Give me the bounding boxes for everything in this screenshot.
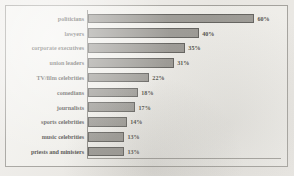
category-label: union leaders: [11, 60, 84, 66]
bar: [88, 14, 254, 24]
bar-value-label: 35%: [188, 45, 200, 51]
bar-row: lawyers40%: [11, 26, 283, 41]
bar-value-label: 22%: [152, 75, 164, 81]
category-label: politicians: [11, 16, 84, 22]
chart-frame: politicians60%lawyers40%corporate execut…: [5, 5, 288, 167]
category-label: lawyers: [11, 31, 84, 37]
bar-track: 31%: [88, 56, 283, 71]
bar-track: 40%: [88, 26, 283, 41]
chart-page: politicians60%lawyers40%corporate execut…: [0, 0, 294, 176]
bar-track: 17%: [88, 100, 283, 115]
bar-row: TV/film celebrities22%: [11, 71, 283, 86]
bar-track: 60%: [88, 12, 283, 27]
bar-row: music celebrities13%: [11, 130, 283, 145]
bar-track: 22%: [88, 71, 283, 86]
bar-value-label: 40%: [202, 31, 214, 37]
bar-track: 14%: [88, 115, 283, 130]
bar-value-label: 31%: [177, 60, 189, 66]
bar-row: priests and ministers13%: [11, 145, 283, 160]
bar: [88, 132, 124, 142]
bar: [88, 117, 127, 127]
bar-value-label: 60%: [258, 16, 270, 22]
bar-track: 35%: [88, 41, 283, 56]
bar-value-label: 18%: [141, 90, 153, 96]
bar-value-label: 14%: [130, 119, 142, 125]
bar-row: sports celebrities14%: [11, 115, 283, 130]
bar-row: journalists17%: [11, 100, 283, 115]
bar-row: corporate executives35%: [11, 41, 283, 56]
category-label: priests and ministers: [11, 149, 84, 155]
plot-area: politicians60%lawyers40%corporate execut…: [11, 10, 283, 160]
category-label: journalists: [11, 105, 84, 111]
bar: [88, 88, 138, 98]
bar: [88, 102, 135, 112]
bar-row: union leaders31%: [11, 56, 283, 71]
category-label: corporate executives: [11, 45, 84, 51]
category-label: sports celebrities: [11, 119, 84, 125]
bar-track: 13%: [88, 130, 283, 145]
bar: [88, 147, 124, 157]
bar: [88, 73, 149, 83]
category-label: TV/film celebrities: [11, 75, 84, 81]
bar-track: 13%: [88, 145, 283, 160]
bar: [88, 28, 199, 38]
bar: [88, 43, 185, 53]
bar-value-label: 17%: [139, 105, 151, 111]
category-label: music celebrities: [11, 134, 84, 140]
bar-value-label: 13%: [127, 149, 139, 155]
bar-track: 18%: [88, 86, 283, 101]
category-label: comedians: [11, 90, 84, 96]
bar-row: politicians60%: [11, 12, 283, 27]
bar-value-label: 13%: [127, 134, 139, 140]
bar-row: comedians18%: [11, 86, 283, 101]
bar: [88, 58, 174, 68]
